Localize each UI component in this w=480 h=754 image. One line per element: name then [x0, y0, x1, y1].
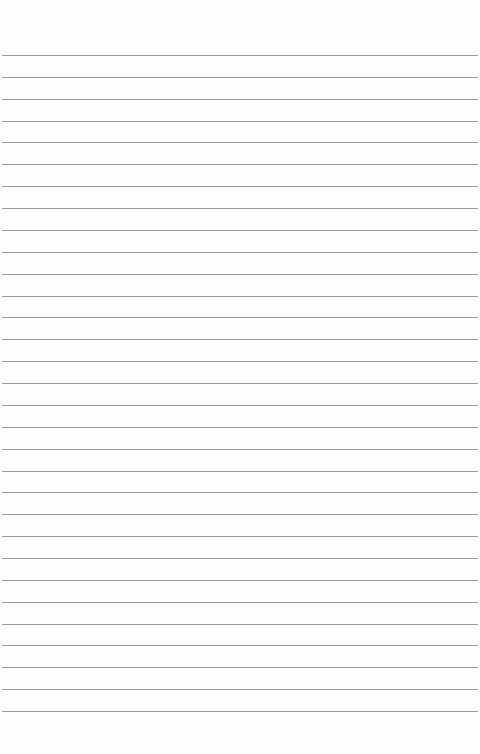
- ruled-line: [2, 252, 478, 253]
- ruled-line: [2, 186, 478, 187]
- ruled-line: [2, 121, 478, 122]
- ruled-line: [2, 645, 478, 646]
- ruled-line: [2, 492, 478, 493]
- ruled-line: [2, 77, 478, 78]
- ruled-line: [2, 514, 478, 515]
- ruled-line: [2, 383, 478, 384]
- ruled-line: [2, 230, 478, 231]
- ruled-line: [2, 471, 478, 472]
- ruled-line: [2, 624, 478, 625]
- ruled-line: [2, 164, 478, 165]
- ruled-line: [2, 339, 478, 340]
- ruled-line: [2, 711, 478, 712]
- ruled-line: [2, 449, 478, 450]
- ruled-line: [2, 536, 478, 537]
- ruled-line: [2, 296, 478, 297]
- ruled-line: [2, 208, 478, 209]
- ruled-line: [2, 99, 478, 100]
- ruled-line: [2, 602, 478, 603]
- ruled-line: [2, 361, 478, 362]
- ruled-line: [2, 405, 478, 406]
- ruled-line: [2, 427, 478, 428]
- ruled-line: [2, 580, 478, 581]
- ruled-line: [2, 274, 478, 275]
- lined-paper: [0, 0, 480, 754]
- ruled-line: [2, 558, 478, 559]
- ruled-line: [2, 667, 478, 668]
- ruled-line: [2, 317, 478, 318]
- ruled-line: [2, 55, 478, 56]
- ruled-line: [2, 689, 478, 690]
- ruled-line: [2, 142, 478, 143]
